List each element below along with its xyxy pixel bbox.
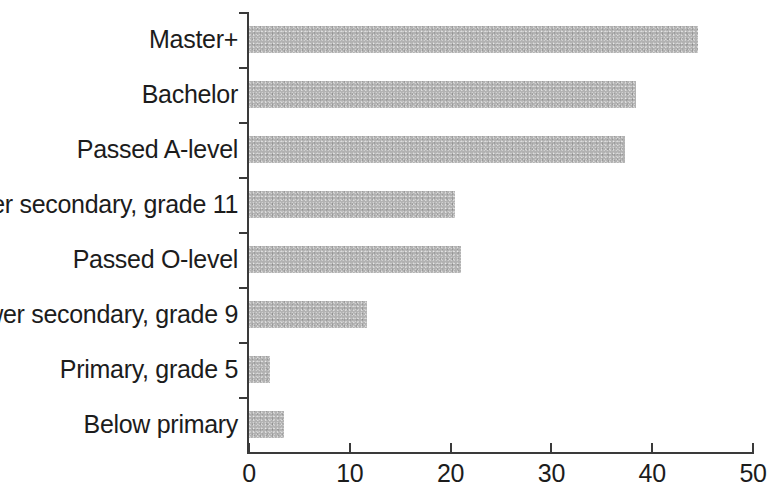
- x-axis-tick-label: 50: [739, 459, 766, 488]
- bar: [249, 356, 270, 383]
- bar: [249, 246, 461, 273]
- bar-chart: Master+BachelorPassed A-levelUpper secon…: [0, 0, 768, 491]
- y-axis-tick: [239, 122, 248, 124]
- x-axis-tick: [349, 443, 351, 453]
- plot-area: Master+BachelorPassed A-levelUpper secon…: [0, 0, 768, 491]
- category-label: Passed A-level: [77, 136, 238, 163]
- x-axis-tick-label: 30: [538, 459, 565, 488]
- x-axis-tick: [450, 443, 452, 453]
- x-axis-tick-label: 40: [639, 459, 666, 488]
- x-axis-tick: [651, 443, 653, 453]
- x-axis-tick-label: 20: [437, 459, 464, 488]
- x-axis-tick: [550, 443, 552, 453]
- x-axis-tick: [752, 443, 754, 453]
- y-axis-tick: [239, 342, 248, 344]
- category-label: Bachelor: [142, 81, 238, 108]
- bar: [249, 81, 636, 108]
- bar: [249, 301, 367, 328]
- x-axis-tick-label: 10: [336, 459, 363, 488]
- category-label: Master+: [149, 26, 238, 53]
- x-axis-tick: [248, 443, 250, 453]
- bar: [249, 136, 625, 163]
- x-axis-tick-label: 0: [242, 459, 256, 488]
- y-axis-tick: [239, 177, 248, 179]
- category-label: Below primary: [84, 411, 238, 438]
- category-label: Passed O-level: [73, 246, 238, 273]
- category-label: Lower secondary, grade 9: [0, 301, 238, 328]
- y-axis-tick: [239, 287, 248, 289]
- y-axis-tick: [239, 12, 248, 14]
- category-label: Primary, grade 5: [60, 356, 238, 383]
- bar: [249, 26, 698, 53]
- bar: [249, 191, 455, 218]
- y-axis-tick: [239, 397, 248, 399]
- x-axis-line: [247, 452, 754, 454]
- category-label: Upper secondary, grade 11: [0, 191, 238, 218]
- bar: [249, 411, 284, 438]
- y-axis-tick: [239, 232, 248, 234]
- y-axis-tick: [239, 67, 248, 69]
